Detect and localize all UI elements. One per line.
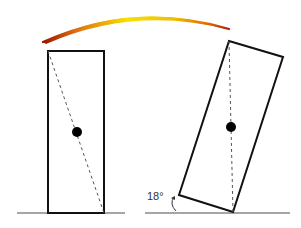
diagram-canvas: 18°	[0, 0, 301, 228]
center-of-mass-dot-upright	[72, 127, 82, 137]
transition-arc-arrow	[43, 17, 230, 44]
tilted-block	[179, 41, 283, 212]
angle-label: 18°	[147, 190, 164, 202]
angle-indicator: 18°	[147, 190, 176, 211]
center-of-mass-dot-tilted	[226, 122, 236, 132]
upright-block	[48, 51, 104, 213]
